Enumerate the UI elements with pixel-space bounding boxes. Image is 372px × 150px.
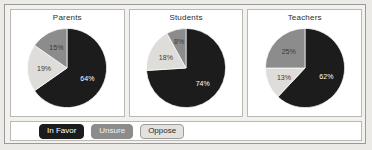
pie-slice-label: 18% [159,54,173,61]
pie-slice-label: 74% [196,80,210,87]
pie-chart-teachers: 62%13%25% [261,24,349,112]
pie-slice-label: 62% [319,73,333,80]
pie-slice-label: 25% [281,48,295,55]
pie-wrap-parents: 64%19%15% [11,24,124,112]
legend-item-unsure[interactable]: Unsure [91,124,133,139]
pie-chart-row: Parents 64%19%15% Students 74%18%8% Teac… [10,9,362,117]
chart-panel-students: Students 74%18%8% [129,9,244,117]
pie-slice-label: 13% [277,74,291,81]
chart-title-students: Students [130,13,243,22]
chart-frame: Parents 64%19%15% Students 74%18%8% Teac… [4,4,366,144]
legend-item-in-favor[interactable]: In Favor [39,124,84,139]
chart-title-parents: Parents [11,13,124,22]
pie-chart-students: 74%18%8% [142,24,230,112]
pie-slice-label: 64% [81,75,95,82]
chart-panel-teachers: Teachers 62%13%25% [247,9,362,117]
pie-wrap-teachers: 62%13%25% [248,24,361,112]
pie-slice-label: 15% [50,44,64,51]
chart-title-teachers: Teachers [248,13,361,22]
chart-panel-parents: Parents 64%19%15% [10,9,125,117]
pie-chart-parents: 64%19%15% [23,24,111,112]
legend-item-oppose[interactable]: Oppose [140,124,184,139]
legend: In Favor Unsure Oppose [10,121,362,141]
pie-wrap-students: 74%18%8% [130,24,243,112]
pie-slice-label: 19% [37,65,51,72]
pie-slice-label: 8% [174,38,184,45]
